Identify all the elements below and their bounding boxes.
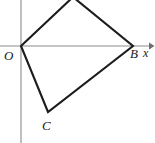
figure-canvas [0, 0, 155, 143]
point-label-c: C [42, 119, 51, 132]
geometry-figure: O B C x [0, 0, 155, 143]
x-axis-label: x [143, 47, 148, 59]
point-label-b: B [130, 47, 138, 60]
x-axis-arrow-icon [149, 43, 155, 50]
quadrilateral-shape [21, 0, 133, 112]
point-label-o: O [4, 49, 13, 62]
